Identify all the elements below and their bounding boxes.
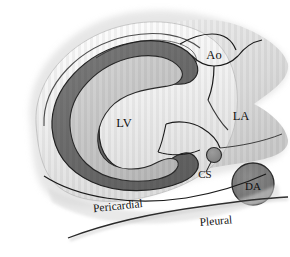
cardiac-anatomy-figure: Ao LA LV CS DA Pericardial Pleural	[0, 0, 290, 257]
anatomy-diagram-canvas: Ao LA LV CS DA Pericardial Pleural	[0, 0, 290, 257]
label-left-ventricle: LV	[116, 116, 132, 130]
label-descending-aorta: DA	[245, 180, 261, 192]
coronary-sinus-circle	[207, 148, 222, 163]
label-aorta: Ao	[206, 48, 221, 62]
label-left-atrium: LA	[233, 109, 250, 123]
label-coronary-sinus: CS	[198, 168, 211, 180]
